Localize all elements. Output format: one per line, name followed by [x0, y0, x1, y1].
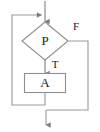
process-label-a: A: [40, 75, 50, 90]
flowchart-canvas: P A T F: [0, 0, 100, 132]
edge-label-false: F: [73, 20, 79, 32]
decision-label-p: P: [41, 33, 48, 48]
flowchart-diagram: P A T F: [0, 0, 100, 132]
edge-label-true: T: [52, 58, 59, 70]
